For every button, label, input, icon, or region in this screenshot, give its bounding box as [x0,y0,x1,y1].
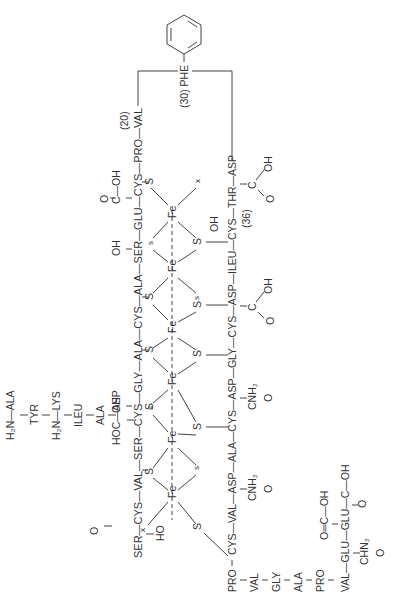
iron-sulfur-cluster: Fe Fe Fe Fe Fe Fe S S S S S S S S S S s … [138,178,228,556]
x-marker: x [138,528,147,532]
bottom-val: VAL [248,573,260,592]
sulfur-atom-icon: S [143,468,155,475]
tyr-label: TYR [28,404,40,425]
sulfur-small-icon: s [146,241,155,245]
asp2-o-label: O [264,317,276,325]
ser3-oh-label: OH [110,240,122,256]
cnh2-label-2: CNH₂ [246,474,258,501]
ala-label: ALA [94,405,106,425]
last-chain: VAL—GLU—GLU—C—OH [339,464,351,592]
hoc-o-label: O [88,527,100,535]
sulfur-atom-icon: S [143,293,155,300]
sulfur-atom-icon: S [143,346,155,353]
main-chain-top: SER—CYS—VAL—SER—CYS—GLY—ALA—CYS—ALA—SER—… [132,108,144,558]
glu-side-c-label: O═C—OH [318,491,330,540]
ser2-oh-label: OH [110,397,122,413]
sulfur-small-icon: s [146,406,155,410]
phe-label: (30) PHE [178,65,190,108]
sulfur-atom-icon: S [191,523,203,530]
chn2-label: CHN₂ [358,538,370,565]
glu-cooh-label: C—OH [110,170,122,204]
thr-oh-label: OH [208,216,220,232]
bottom-ala: ALA [292,572,304,592]
asp2-oh-label: OH [262,278,274,294]
sulfur-atom-icon: S [191,238,203,245]
fe-atom-icon: Fe [166,206,178,218]
cnh2-label-1: CNH₂ [246,383,258,410]
pro-label: PRO [226,569,238,592]
residue-20-label: (20) [118,111,130,130]
sulfur-small-icon: s [192,466,201,470]
last-o-label: O [356,500,368,508]
bottom-gly: GLY [270,572,282,592]
glu-o-label: O [98,195,110,203]
sulfur-atom-icon: S [191,350,203,357]
sulfur-atom-icon: S [191,423,203,430]
ferredoxin-diagram: (30) PHE (20) SER—CYS—VAL—SER—CYS—GLY—AL… [0,0,396,603]
cnh2-o-label-2: O [262,485,274,493]
n-terminal-lys: H₂N—LYS [50,391,62,440]
x-marker: x [193,179,202,183]
benzene-ring-icon [167,15,201,62]
ileu-label: ILEU [72,404,84,427]
asp-o-label: O [264,195,276,203]
sulfur-atom-icon: S [191,301,203,308]
asp-oh-label: OH [262,156,274,172]
structure-svg: (30) PHE (20) SER—CYS—VAL—SER—CYS—GLY—AL… [0,0,396,603]
asp-c-label: C [246,181,258,189]
fe-atom-icon: Fe [166,431,178,443]
residue-36-label: (36) [240,209,252,228]
sulfur-atom-icon: S [143,178,155,185]
fe-atom-icon: Fe [166,373,178,385]
chn2-o-label: O [374,549,386,557]
ser-ho-label: HO [154,525,166,541]
sulfur-small-icon: s [192,296,201,300]
bottom-pro: PRO [314,569,326,592]
cnh2-o-label-1: O [262,394,274,402]
n-terminal-ala: H₂N—ALA [4,390,16,440]
fe-atom-icon: Fe [166,486,178,498]
asp2-c-label: C [246,303,258,311]
fe-atom-icon: Fe [166,321,178,333]
